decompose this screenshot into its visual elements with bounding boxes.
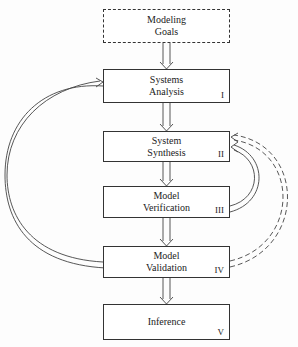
node-modeling-goals: Modeling Goals bbox=[103, 9, 230, 43]
node-inference: Inference V bbox=[103, 304, 230, 340]
node-number: I bbox=[221, 90, 224, 100]
node-systems-analysis: Systems Analysis I bbox=[103, 69, 230, 103]
node-label: Inference bbox=[148, 316, 186, 328]
node-number: II bbox=[218, 149, 224, 159]
connector-layer bbox=[0, 0, 298, 347]
feedback-arc-verification-to-synthesis bbox=[230, 142, 259, 212]
arrow-verification-to-validation bbox=[160, 218, 173, 246]
node-model-validation: Model Validation IV bbox=[103, 246, 230, 278]
arrow-analysis-to-synthesis bbox=[160, 103, 173, 131]
node-label: Model Verification bbox=[143, 190, 190, 214]
node-label: Model Validation bbox=[146, 250, 187, 274]
node-system-synthesis: System Synthesis II bbox=[103, 131, 230, 162]
node-number: IV bbox=[215, 265, 225, 275]
node-model-verification: Model Verification III bbox=[103, 186, 230, 218]
arrow-synthesis-to-verification bbox=[160, 162, 173, 186]
node-number: V bbox=[218, 327, 225, 337]
node-label: System Synthesis bbox=[147, 135, 185, 159]
node-label: Modeling Goals bbox=[147, 14, 186, 38]
feedback-arc-validation-to-synthesis-dashed bbox=[230, 135, 288, 267]
arrow-goals-to-analysis bbox=[160, 43, 173, 69]
node-label: Systems Analysis bbox=[149, 74, 184, 98]
arrow-validation-to-inference bbox=[160, 278, 173, 304]
feedback-arc-validation-to-analysis bbox=[5, 78, 106, 268]
node-number: III bbox=[215, 205, 224, 215]
